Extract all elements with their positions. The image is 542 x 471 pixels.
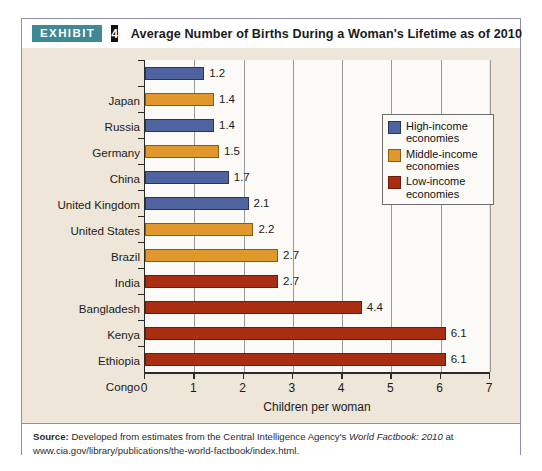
y-axis-tick — [138, 164, 144, 165]
x-axis-tick-label: 4 — [338, 381, 345, 395]
y-axis-tick — [138, 268, 144, 269]
category-label: United Kingdom — [22, 198, 140, 211]
y-axis-tick — [138, 346, 144, 347]
bar-value-label: 2.7 — [283, 249, 299, 261]
bar[interactable] — [145, 171, 229, 184]
category-label: Brazil — [22, 250, 140, 263]
bar[interactable] — [145, 353, 446, 366]
bar-value-label: 6.1 — [451, 353, 467, 365]
bar-value-label: 1.2 — [209, 67, 225, 79]
bar[interactable] — [145, 119, 214, 132]
bar-row[interactable]: 1.7 — [145, 164, 250, 190]
category-label: Japan — [22, 94, 140, 107]
chart-panel: 1.21.41.41.51.72.12.22.72.74.46.16.1 Jap… — [22, 48, 520, 423]
bar[interactable] — [145, 67, 204, 80]
y-axis-tick — [138, 190, 144, 191]
source-text-before: Developed from estimates from the Centra… — [69, 431, 349, 442]
x-axis-tick-label: 1 — [190, 381, 197, 395]
category-label: Russia — [22, 120, 140, 133]
legend-swatch-high — [388, 121, 401, 134]
bar-row[interactable]: 1.2 — [145, 60, 225, 86]
category-axis-labels: JapanRussiaGermanyChinaUnited KingdomUni… — [22, 89, 140, 401]
category-label: India — [22, 276, 140, 289]
legend-label: High-incomeeconomies — [406, 120, 468, 145]
category-label: Ethiopia — [22, 354, 140, 367]
x-axis-tick — [390, 373, 391, 379]
category-label: China — [22, 172, 140, 185]
x-axis-tick — [341, 373, 342, 379]
legend-swatch-middle — [388, 149, 401, 162]
x-axis-line — [144, 372, 490, 374]
bar-row[interactable]: 2.1 — [145, 190, 270, 216]
legend-item[interactable]: High-incomeeconomies — [388, 120, 488, 145]
exhibit-frame: EXHIBIT 4 Average Number of Births Durin… — [21, 18, 521, 455]
exhibit-badge: EXHIBIT — [32, 25, 102, 43]
bar[interactable] — [145, 275, 278, 288]
bar-value-label: 1.4 — [219, 93, 235, 105]
x-axis-tick — [193, 373, 194, 379]
x-axis-tick-label: 6 — [436, 381, 443, 395]
exhibit-header: EXHIBIT 4 Average Number of Births Durin… — [22, 19, 520, 48]
bar-value-label: 2.7 — [283, 275, 299, 287]
bar-row[interactable]: 1.4 — [145, 112, 235, 138]
bar-row[interactable]: 6.1 — [145, 346, 467, 372]
bar-row[interactable]: 2.2 — [145, 216, 274, 242]
x-axis-tick-label: 7 — [486, 381, 493, 395]
bar[interactable] — [145, 145, 219, 158]
bar[interactable] — [145, 223, 253, 236]
y-axis-tick — [138, 138, 144, 139]
legend-label: Low-incomeeconomies — [406, 175, 465, 200]
bar-row[interactable]: 1.4 — [145, 86, 235, 112]
legend-swatch-low — [388, 176, 401, 189]
x-axis-tick — [144, 373, 145, 379]
bar[interactable] — [145, 197, 249, 210]
bar[interactable] — [145, 301, 362, 314]
y-axis-tick — [138, 216, 144, 217]
category-label: Germany — [22, 146, 140, 159]
bar-row[interactable]: 6.1 — [145, 320, 467, 346]
x-axis-tick-label: 2 — [239, 381, 246, 395]
bar-value-label: 6.1 — [451, 327, 467, 339]
chart-legend: High-incomeeconomiesMiddle-incomeeconomi… — [382, 114, 494, 205]
category-label: Bangladesh — [22, 302, 140, 315]
legend-label: Middle-incomeeconomies — [406, 148, 478, 173]
x-axis-tick-label: 3 — [289, 381, 296, 395]
bar-value-label: 1.5 — [224, 145, 240, 157]
bar-value-label: 2.1 — [254, 197, 270, 209]
bar[interactable] — [145, 327, 446, 340]
x-axis-tick — [292, 373, 293, 379]
source-label: Source: — [33, 431, 69, 442]
category-label: United States — [22, 224, 140, 237]
source-italic-title: World Factbook: 2010 — [349, 431, 443, 442]
bar-value-label: 4.4 — [367, 301, 383, 313]
y-axis-tick — [138, 86, 144, 87]
x-axis-tick-label: 0 — [141, 381, 148, 395]
y-axis-tick — [138, 294, 144, 295]
x-axis-tick — [440, 373, 441, 379]
y-axis-tick — [138, 320, 144, 321]
bar-row[interactable]: 2.7 — [145, 268, 299, 294]
bar-value-label: 1.7 — [234, 171, 250, 183]
x-axis-tick-label: 5 — [387, 381, 394, 395]
plot-area: 1.21.41.41.51.72.12.22.72.74.46.16.1 — [144, 60, 489, 372]
bar-value-label: 2.2 — [258, 223, 274, 235]
bar-row[interactable]: 2.7 — [145, 242, 299, 268]
gridline — [490, 60, 491, 372]
y-axis-tick — [138, 60, 144, 61]
exhibit-number-badge: 4 — [111, 25, 118, 42]
page-title: Average Number of Births During a Woman'… — [131, 27, 522, 41]
source-note: Source: Developed from estimates from th… — [22, 424, 520, 455]
x-axis-tick — [489, 373, 490, 379]
legend-item[interactable]: Middle-incomeeconomies — [388, 148, 488, 173]
bar[interactable] — [145, 249, 278, 262]
y-axis-tick — [138, 242, 144, 243]
bar[interactable] — [145, 93, 214, 106]
category-label: Congo — [22, 380, 140, 393]
x-axis-title: Children per woman — [144, 400, 490, 414]
category-label: Kenya — [22, 328, 140, 341]
bar-row[interactable]: 1.5 — [145, 138, 240, 164]
bar-row[interactable]: 4.4 — [145, 294, 383, 320]
y-axis-tick — [138, 112, 144, 113]
bar-value-label: 1.4 — [219, 119, 235, 131]
legend-item[interactable]: Low-incomeeconomies — [388, 175, 488, 200]
